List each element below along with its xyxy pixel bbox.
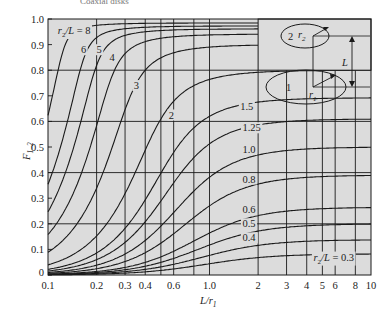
y-tick-label: 0.1 [31, 244, 44, 255]
svg-text:1.0: 1.0 [242, 144, 255, 155]
curve-label: 2 [167, 110, 175, 121]
y-tick-label: 0.2 [31, 219, 44, 230]
x-tick-label: 6 [333, 280, 338, 291]
curve-label: r2/L = 0.3 [312, 252, 356, 266]
view-factor-chart: Coaxial disks 2r21r1L r2/L = 8654321.51.… [0, 0, 388, 318]
curve-label: 3 [132, 80, 140, 91]
curve-label: r2/L = 8 [56, 25, 92, 39]
curve-label: 0.8 [241, 174, 257, 185]
y-tick-label: 0.8 [31, 65, 44, 76]
svg-text:3: 3 [134, 80, 139, 91]
curve-label: 6 [79, 44, 87, 55]
y-tick-label: 0.6 [31, 116, 44, 127]
x-tick-label: 5 [320, 280, 325, 291]
svg-text:2: 2 [169, 110, 174, 121]
y-axis-label: F1–2 [21, 142, 35, 161]
curve-label: 0.5 [241, 218, 257, 229]
x-tick-label: 0.4 [139, 280, 153, 291]
x-tick-label: 0.6 [167, 280, 180, 291]
x-tick-labels: 0.10.20.30.40.61.023456810 [41, 280, 376, 291]
curve-label: 1.5 [239, 101, 255, 112]
curve-label: 4 [108, 52, 117, 63]
y-tick-label: 0 [39, 267, 44, 278]
svg-text:0.6: 0.6 [242, 204, 255, 215]
disk-1-label: 1 [286, 82, 291, 93]
svg-text:0.8: 0.8 [242, 174, 255, 185]
svg-text:0.5: 0.5 [242, 218, 255, 229]
disk-2-label: 2 [288, 31, 293, 42]
y-tick-label: 0.9 [31, 40, 44, 51]
svg-text:0.4: 0.4 [242, 232, 256, 243]
x-axis-label: L/r1 [199, 295, 217, 309]
y-tick-label: 0.3 [31, 193, 44, 204]
x-tick-label: 4 [304, 280, 310, 291]
clipped-caption: Coaxial disks [80, 0, 129, 6]
svg-text:6: 6 [81, 44, 86, 55]
svg-text:5: 5 [97, 44, 102, 55]
curve-label: 5 [95, 44, 103, 55]
L-label: L [341, 57, 348, 68]
y-tick-label: 0.7 [31, 91, 44, 102]
x-tick-label: 8 [353, 280, 358, 291]
x-tick-label: 0.3 [118, 280, 131, 291]
curve-label: 0.6 [241, 204, 257, 215]
curve-label: 1.25 [241, 122, 262, 133]
y-tick-label: 1.0 [31, 14, 44, 25]
svg-text:4: 4 [109, 52, 115, 63]
x-tick-label: 1.0 [203, 280, 216, 291]
svg-text:1.25: 1.25 [242, 122, 260, 133]
curve-label: 1.0 [241, 144, 257, 155]
curve-label: 0.4 [241, 232, 258, 243]
x-tick-label: 10 [366, 280, 377, 291]
x-tick-label: 0.1 [41, 280, 54, 291]
y-tick-label: 0.4 [31, 168, 45, 179]
svg-text:1.5: 1.5 [240, 101, 253, 112]
x-tick-label: 3 [284, 280, 289, 291]
x-tick-label: 0.2 [90, 280, 103, 291]
x-tick-label: 2 [255, 280, 260, 291]
inset-box [258, 19, 371, 70]
